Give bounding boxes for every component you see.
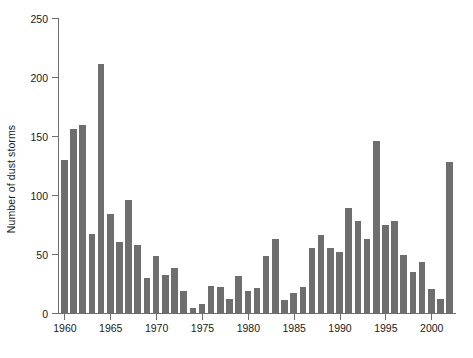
y-axis-tick-label: 100: [30, 190, 48, 202]
bar: [373, 141, 380, 313]
y-axis-tick: 0: [52, 313, 58, 314]
bar: [382, 225, 389, 314]
y-axis-tick: 50: [52, 254, 58, 255]
bar: [190, 308, 197, 313]
bar: [144, 278, 151, 313]
bar: [116, 242, 123, 313]
bar: [300, 287, 307, 313]
y-axis-tick-label: 50: [36, 249, 48, 261]
y-axis-line: [58, 18, 59, 314]
bar: [309, 248, 316, 313]
x-axis-tick-label: 1965: [99, 322, 122, 334]
bar: [336, 252, 343, 313]
plot-area: 050100150200250 196019651970197519801985…: [58, 18, 456, 314]
x-axis-tick: 1995: [385, 314, 386, 320]
x-axis-tick-label: 2000: [420, 322, 443, 334]
y-axis-tick-label: 150: [30, 131, 48, 143]
y-axis-tick: 100: [52, 195, 58, 196]
bar: [419, 262, 426, 313]
x-axis-tick: 1970: [156, 314, 157, 320]
bar: [410, 272, 417, 313]
bar: [345, 208, 352, 313]
y-axis-tick-label: 250: [30, 13, 48, 25]
dust-storms-bar-chart: Number of dust storms 050100150200250 19…: [0, 0, 473, 358]
x-axis-tick: 1960: [64, 314, 65, 320]
bar: [235, 276, 242, 313]
y-axis-tick: 250: [52, 18, 58, 19]
bar: [400, 255, 407, 313]
x-axis-tick: 1965: [110, 314, 111, 320]
x-axis-tick-label: 1985: [282, 322, 305, 334]
bar: [263, 256, 270, 313]
bar: [281, 300, 288, 313]
y-axis-tick: 150: [52, 136, 58, 137]
bar: [272, 239, 279, 313]
x-axis-tick-label: 1960: [53, 322, 76, 334]
bar: [180, 291, 187, 313]
y-axis-tick: 200: [52, 77, 58, 78]
bar: [208, 286, 215, 313]
bar: [61, 160, 68, 313]
bar: [134, 245, 141, 313]
bar: [446, 162, 453, 313]
bar: [290, 293, 297, 313]
x-axis-tick: 2000: [431, 314, 432, 320]
bar: [199, 304, 206, 313]
x-axis-tick-label: 1975: [191, 322, 214, 334]
y-axis-title: Number of dust storms: [0, 0, 22, 358]
bar: [254, 288, 261, 313]
bar: [70, 129, 77, 313]
bar: [245, 291, 252, 313]
x-axis-line: [58, 313, 456, 314]
bar: [171, 268, 178, 313]
x-axis-tick-label: 1980: [237, 322, 260, 334]
x-axis-tick-label: 1970: [145, 322, 168, 334]
bar: [162, 275, 169, 313]
y-axis-tick-label: 0: [42, 308, 48, 320]
bar: [98, 64, 105, 313]
bar: [437, 299, 444, 313]
x-axis-tick: 1985: [294, 314, 295, 320]
y-axis-tick-label: 200: [30, 72, 48, 84]
bar: [428, 289, 435, 313]
x-axis-tick: 1980: [248, 314, 249, 320]
bar: [217, 287, 224, 313]
x-axis-tick-label: 1990: [328, 322, 351, 334]
bar: [107, 214, 114, 313]
bar: [89, 234, 96, 313]
bar: [125, 200, 132, 313]
x-axis-tick: 1975: [202, 314, 203, 320]
bar: [318, 235, 325, 313]
bar: [153, 256, 160, 313]
x-axis-tick-label: 1995: [374, 322, 397, 334]
bar: [226, 299, 233, 313]
bar: [327, 248, 334, 313]
x-axis-tick: 1990: [340, 314, 341, 320]
bar: [79, 125, 86, 313]
bar: [391, 221, 398, 313]
bar: [355, 221, 362, 313]
bar: [364, 239, 371, 313]
